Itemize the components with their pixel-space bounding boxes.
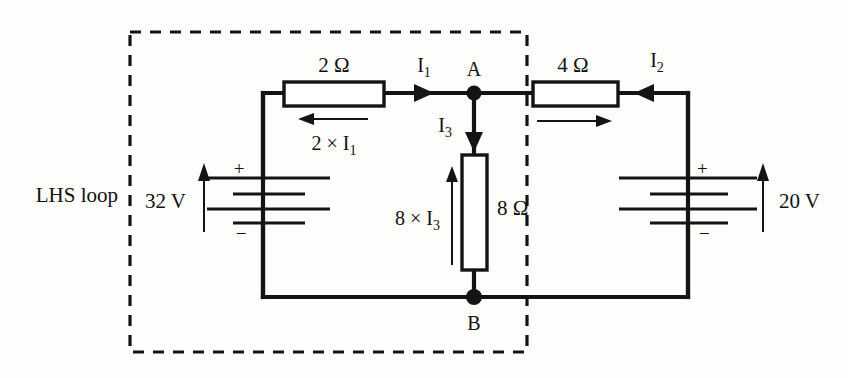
current-i1-label-main: I (417, 54, 424, 76)
battery-right-plus-sign: + (697, 158, 708, 179)
resistor-8ohm-drop-label: 8 × I3 (395, 207, 440, 233)
current-i1-label-sub: 1 (424, 65, 431, 80)
battery-left-voltage-label: 32 V (145, 189, 186, 213)
circuit-diagram-page: + − 32 V + − 20 V 2 Ω 2 × I1 4 Ω (0, 0, 848, 378)
resistor-2ohm-drop-arrow-head (298, 113, 314, 125)
resistor-2ohm-body (284, 82, 384, 106)
resistor-8ohm-body (462, 155, 487, 270)
resistor-8ohm-drop-label-sub: 3 (433, 218, 440, 233)
current-i1-label: I1 (417, 54, 431, 80)
resistor-8ohm-drop-label-main: 8 × I (395, 207, 433, 229)
resistor-4ohm-value-label: 4 Ω (557, 53, 588, 77)
node-a-label: A (467, 58, 482, 80)
battery-left-minus-sign: − (236, 223, 247, 244)
current-i2-arrow-head (634, 84, 654, 102)
circuit-diagram-svg: + − 32 V + − 20 V 2 Ω 2 × I1 4 Ω (0, 0, 848, 378)
battery-left-voltage-arrow-head (198, 163, 210, 181)
current-i3-label: I3 (438, 114, 452, 140)
battery-right-minus-sign: − (699, 223, 710, 244)
current-i3-arrow-head (465, 132, 483, 152)
battery-left-plus-sign: + (234, 158, 245, 179)
node-b-label: B (467, 312, 480, 334)
current-i3-label-sub: 3 (445, 125, 452, 140)
current-i1-arrow-head (414, 84, 434, 102)
resistor-8ohm-drop-arrow-head (446, 166, 458, 182)
resistor-2ohm-drop-label-main: 2 × I (312, 132, 350, 154)
resistor-4ohm-direction-arrow-head (596, 115, 612, 127)
resistor-2ohm-drop-label: 2 × I1 (312, 132, 357, 158)
current-i2-label-main: I (650, 49, 657, 71)
node-a-dot (467, 86, 482, 101)
resistor-2ohm-value-label: 2 Ω (318, 53, 349, 77)
current-i2-label-sub: 2 (657, 60, 664, 75)
battery-right-voltage-arrow-head (757, 163, 769, 181)
node-b-dot (466, 289, 482, 305)
battery-right-voltage-label: 20 V (779, 189, 820, 213)
resistor-2ohm-drop-label-sub: 1 (349, 143, 356, 158)
resistor-8ohm-value-label: 8 Ω (497, 196, 528, 220)
lhs-loop-label: LHS loop (36, 183, 118, 207)
current-i2-label: I2 (650, 49, 664, 75)
current-i3-label-main: I (438, 114, 445, 136)
resistor-4ohm-body (533, 82, 618, 106)
